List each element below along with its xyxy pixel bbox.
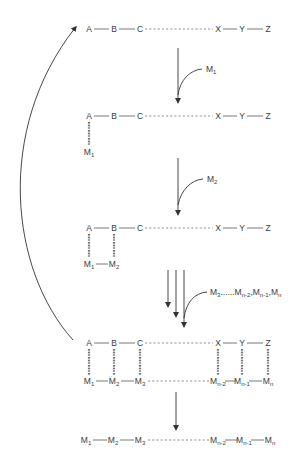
- monomer-m2: M2: [109, 376, 120, 387]
- template-node-x: X: [215, 223, 221, 233]
- monomer-label-m1: M1: [206, 64, 217, 75]
- template-node-z: Z: [265, 111, 270, 121]
- monomer-mn-1: Mn-1: [234, 376, 250, 387]
- monomer-mn: Mn: [265, 435, 275, 446]
- template-node-z: Z: [265, 338, 270, 348]
- product-row-step2: M1M2: [84, 259, 120, 270]
- monomer-m1: M1: [84, 147, 95, 158]
- monomer-label-m3-mn: M3......Mn-2,Mn-1,Mn: [210, 287, 281, 298]
- template-node-a: A: [86, 24, 92, 34]
- monomer-label-m2: M2: [207, 174, 218, 185]
- template-node-b: B: [111, 111, 117, 121]
- template-node-x: X: [215, 111, 221, 121]
- template-node-a: A: [86, 338, 92, 348]
- monomer-m1: M1: [84, 376, 95, 387]
- template-row-step3: ABCXYZ: [86, 338, 270, 348]
- monomer-m1: M1: [81, 435, 92, 446]
- cycle-arrow: [20, 28, 75, 340]
- template-node-b: B: [111, 24, 117, 34]
- monomer-m3: M3: [135, 376, 146, 387]
- template-node-x: X: [215, 338, 221, 348]
- monomer-mn-2: Mn-2: [210, 376, 226, 387]
- template-node-a: A: [86, 223, 92, 233]
- template-node-b: B: [111, 338, 117, 348]
- monomer-mn-1: Mn-1: [236, 435, 252, 446]
- template-node-b: B: [111, 223, 117, 233]
- monomer-m2: M2: [108, 435, 119, 446]
- monomer-m2: M2: [109, 259, 120, 270]
- addition-arrow-m1: M1: [178, 48, 217, 101]
- template-node-x: X: [215, 24, 221, 34]
- template-node-c: C: [137, 223, 143, 233]
- addition-arrows-m3-mn: M3......Mn-2,Mn-1,Mn: [168, 270, 281, 325]
- template-polymerization-diagram: M1 M2 M3......Mn-2,Mn-1,Mn ABCXYZABCXYZM…: [0, 0, 294, 470]
- template-node-y: Y: [239, 24, 245, 34]
- product-row-step1: M1: [84, 147, 95, 158]
- template-row-step1: ABCXYZ: [86, 111, 270, 121]
- template-node-z: Z: [265, 24, 270, 34]
- template-node-y: Y: [239, 111, 245, 121]
- monomer-m1: M1: [84, 259, 95, 270]
- template-row-step2: ABCXYZ: [86, 223, 270, 233]
- template-node-c: C: [137, 338, 143, 348]
- monomer-mn: Mn: [263, 376, 273, 387]
- addition-arrow-m2: M2: [178, 158, 218, 213]
- product-row-step3: M1M2M3Mn-2Mn-1Mn: [84, 376, 273, 387]
- template-node-z: Z: [265, 223, 270, 233]
- template-node-c: C: [137, 111, 143, 121]
- monomer-m3: M3: [135, 435, 146, 446]
- template-row-free: ABCXYZ: [86, 24, 270, 34]
- monomer-mn-2: Mn-2: [210, 435, 226, 446]
- template-node-y: Y: [239, 223, 245, 233]
- template-node-c: C: [137, 24, 143, 34]
- template-node-y: Y: [239, 338, 245, 348]
- template-node-a: A: [86, 111, 92, 121]
- released-polymer: M1M2M3Mn-2Mn-1Mn: [81, 435, 275, 446]
